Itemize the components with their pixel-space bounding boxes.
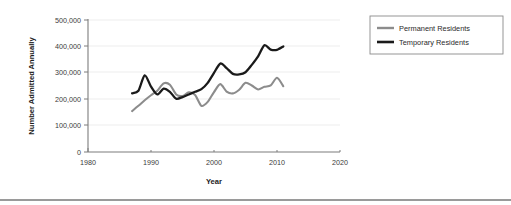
y-tick-label-0: 0	[77, 148, 81, 157]
series-group	[132, 45, 283, 111]
legend-label-temporary-residents: Temporary Residents	[399, 38, 469, 47]
legend-border	[370, 16, 503, 54]
y-tick-label-400000: 400,000	[55, 42, 81, 51]
x-tick-label-1980: 1980	[80, 158, 96, 167]
x-tick-label-2010: 2010	[269, 158, 285, 167]
x-tick-label-2000: 2000	[206, 158, 222, 167]
y-tick-label-200000: 200,000	[55, 95, 81, 104]
chart-figure: 500,000 400,000 300,000 200,000 100,000 …	[0, 0, 511, 205]
y-axis-title: Number Admitted Annually	[27, 37, 36, 135]
x-tick-label-1990: 1990	[143, 158, 159, 167]
x-axis-title: Year	[206, 177, 222, 186]
y-tick-label-300000: 300,000	[55, 68, 81, 77]
y-axis: 500,000 400,000 300,000 200,000 100,000 …	[55, 16, 88, 157]
line-chart: 500,000 400,000 300,000 200,000 100,000 …	[0, 0, 511, 205]
x-tick-label-2020: 2020	[332, 158, 348, 167]
legend: Permanent Residents Temporary Residents	[370, 16, 503, 54]
y-tick-label-100000: 100,000	[55, 121, 81, 130]
x-axis: 1980 1990 2000 2010 2020	[80, 148, 348, 167]
y-tick-label-500000: 500,000	[55, 16, 81, 25]
legend-label-permanent-residents: Permanent Residents	[399, 24, 470, 33]
